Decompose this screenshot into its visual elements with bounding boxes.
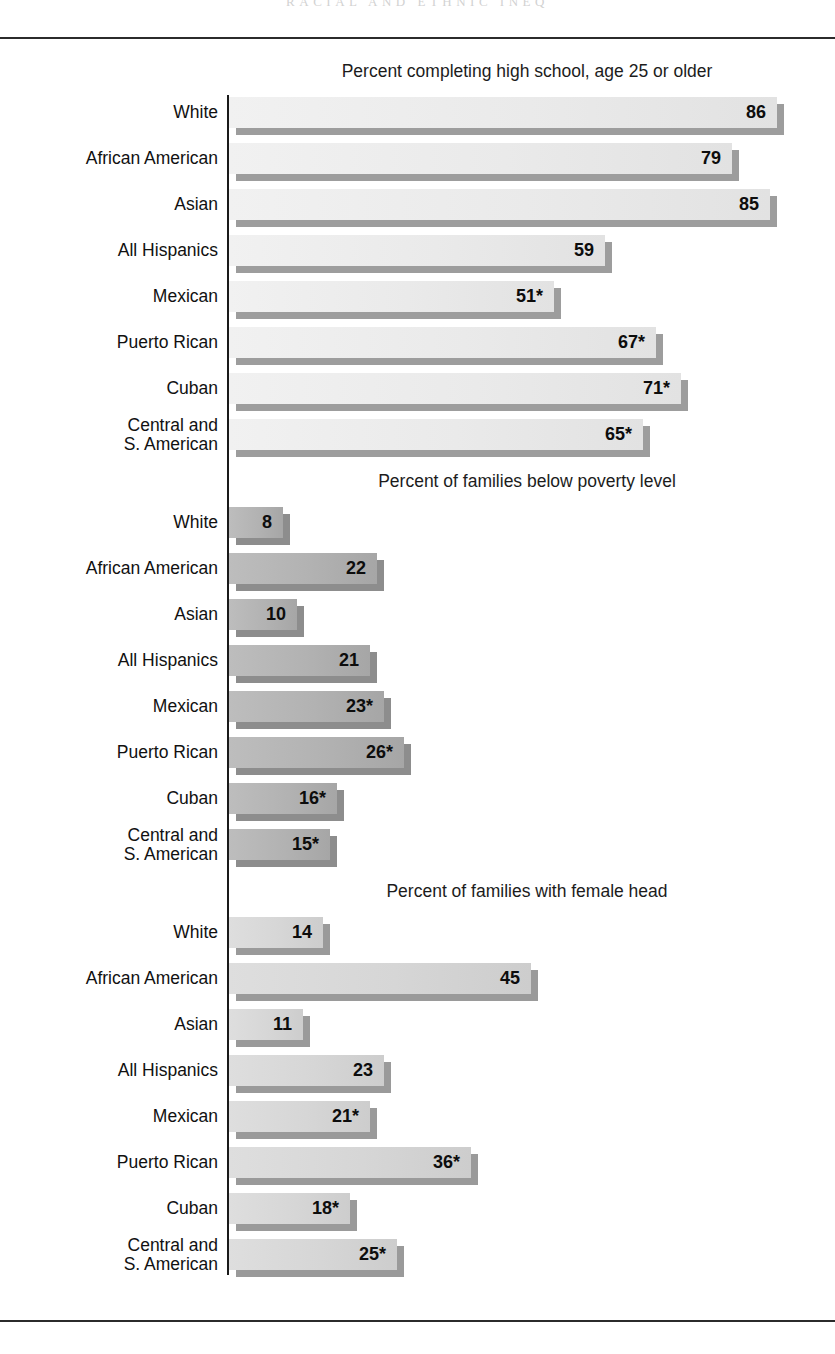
bar-value-label: 16* [299, 787, 326, 810]
bar-value-label: 23* [346, 695, 373, 718]
category-label-line1: African American [86, 558, 218, 578]
category-label-line1: Cuban [166, 1198, 218, 1218]
category-label-line2: S. American [0, 845, 218, 864]
chart-row: Mexican21* [0, 1101, 835, 1147]
bar-value-label: 71* [643, 377, 670, 400]
bar: 16* [229, 783, 337, 821]
category-label-line1: Asian [174, 604, 218, 624]
bar: 51* [229, 281, 554, 319]
bar-face [229, 963, 531, 994]
bar-face [229, 97, 777, 128]
category-label: African American [0, 149, 218, 168]
bar: 59 [229, 235, 605, 273]
bar-value-label: 51* [516, 285, 543, 308]
category-label-line1: African American [86, 148, 218, 168]
category-label-line1: Central and [128, 825, 218, 845]
chart-row: Mexican51* [0, 281, 835, 327]
bar-value-label: 79 [701, 147, 721, 170]
category-label: Central andS. American [0, 416, 218, 454]
category-label: White [0, 103, 218, 122]
bar-value-label: 10 [266, 603, 286, 626]
category-label-line1: All Hispanics [118, 240, 218, 260]
category-label-line1: White [173, 102, 218, 122]
category-label-line1: White [173, 922, 218, 942]
chart-row: Central andS. American15* [0, 829, 835, 875]
bar-value-label: 26* [366, 741, 393, 764]
bar-value-label: 86 [746, 101, 766, 124]
chart-row: All Hispanics23 [0, 1055, 835, 1101]
bar: 25* [229, 1239, 397, 1277]
bar-value-label: 85 [739, 193, 759, 216]
chart-row: Asian10 [0, 599, 835, 645]
bar: 85 [229, 189, 770, 227]
chart-row: Asian85 [0, 189, 835, 235]
bar: 86 [229, 97, 777, 135]
bar: 21* [229, 1101, 370, 1139]
bar: 65* [229, 419, 643, 457]
category-label-line1: Mexican [153, 286, 218, 306]
category-label-line1: Asian [174, 1014, 218, 1034]
category-label-line1: All Hispanics [118, 650, 218, 670]
bar: 23 [229, 1055, 384, 1093]
category-label: Cuban [0, 1199, 218, 1218]
page-running-head: RACIAL AND ETHNIC INEQ [0, 0, 835, 10]
chart-row: Central andS. American25* [0, 1239, 835, 1285]
bar-value-label: 18* [312, 1197, 339, 1220]
category-label-line1: Central and [128, 1235, 218, 1255]
category-label: Mexican [0, 287, 218, 306]
chart-row: African American79 [0, 143, 835, 189]
bar: 22 [229, 553, 377, 591]
bar-value-label: 59 [574, 239, 594, 262]
chart-row: Puerto Rican67* [0, 327, 835, 373]
chart-row: African American22 [0, 553, 835, 599]
bar: 79 [229, 143, 732, 181]
chart-row: White14 [0, 917, 835, 963]
bar: 26* [229, 737, 404, 775]
category-label: African American [0, 559, 218, 578]
figure-frame: Percent completing high school, age 25 o… [0, 37, 835, 1322]
bar: 15* [229, 829, 330, 867]
category-label-line1: Mexican [153, 1106, 218, 1126]
chart-row: All Hispanics59 [0, 235, 835, 281]
category-label: Puerto Rican [0, 743, 218, 762]
category-label-line1: Cuban [166, 378, 218, 398]
chart-row: Cuban18* [0, 1193, 835, 1239]
category-label: White [0, 923, 218, 942]
bar-face [229, 235, 605, 266]
category-label: Mexican [0, 697, 218, 716]
category-label-line1: Cuban [166, 788, 218, 808]
section-title: Percent of families with female head [227, 881, 827, 902]
bar-value-label: 25* [359, 1243, 386, 1266]
category-label: African American [0, 969, 218, 988]
category-label: Puerto Rican [0, 333, 218, 352]
chart-row: Cuban16* [0, 783, 835, 829]
category-label: Asian [0, 605, 218, 624]
category-label: Cuban [0, 379, 218, 398]
bar-face [229, 373, 681, 404]
bar-value-label: 22 [346, 557, 366, 580]
category-label: Asian [0, 195, 218, 214]
bar: 11 [229, 1009, 303, 1047]
bar-face [229, 281, 554, 312]
bar-value-label: 21 [339, 649, 359, 672]
bar-face [229, 419, 643, 450]
category-label-line1: Central and [128, 415, 218, 435]
bar: 10 [229, 599, 297, 637]
bar: 14 [229, 917, 323, 955]
bar-value-label: 36* [433, 1151, 460, 1174]
category-label: Central andS. American [0, 826, 218, 864]
bar-face [229, 599, 297, 630]
chart-row: African American45 [0, 963, 835, 1009]
bar: 71* [229, 373, 681, 411]
category-label-line1: Puerto Rican [117, 1152, 218, 1172]
bar-face [229, 327, 656, 358]
section-title: Percent of families below poverty level [227, 471, 827, 492]
bar-face [229, 189, 770, 220]
bar-value-label: 45 [500, 967, 520, 990]
category-label: White [0, 513, 218, 532]
category-label-line1: Puerto Rican [117, 742, 218, 762]
bar-value-label: 8 [262, 511, 272, 534]
category-label: All Hispanics [0, 241, 218, 260]
chart-row: All Hispanics21 [0, 645, 835, 691]
chart-row: Cuban71* [0, 373, 835, 419]
